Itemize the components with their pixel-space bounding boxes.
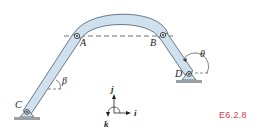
axis-i-label: i: [134, 108, 137, 118]
axis-j-label: j: [109, 84, 114, 94]
point-c-label: C: [15, 99, 22, 110]
coordinate-axes-icon: [106, 94, 131, 117]
beta-arc-icon: [56, 80, 60, 89]
link-ca: [23, 34, 81, 114]
curved-link-ab: [72, 14, 168, 38]
point-b-label: B: [150, 37, 156, 48]
angle-theta-label: θ: [200, 48, 205, 59]
angle-beta-label: β: [61, 75, 67, 86]
figure-id-label: E6.2.8: [219, 110, 247, 120]
axis-k-label: k: [104, 119, 109, 129]
ground-c: [14, 117, 40, 120]
point-a-label: A: [79, 37, 87, 48]
point-d-label: D: [174, 68, 183, 79]
ground-d: [176, 80, 202, 83]
